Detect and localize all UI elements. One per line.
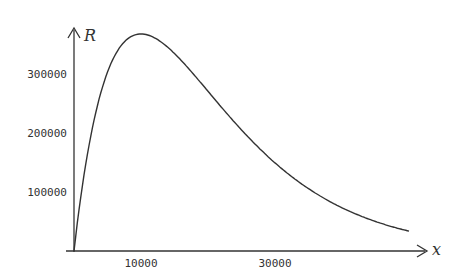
x-axis-label: x — [432, 240, 441, 259]
x-ticks: 1000030000 — [124, 257, 291, 270]
x-tick-label: 10000 — [124, 257, 157, 270]
chart: R x 100000200000300000 1000030000 — [0, 0, 457, 280]
y-axis-label: R — [83, 26, 96, 45]
y-tick-label: 100000 — [27, 186, 67, 199]
y-tick-label: 200000 — [27, 127, 67, 140]
y-tick-label: 300000 — [27, 68, 67, 81]
data-line — [74, 34, 409, 251]
y-ticks: 100000200000300000 — [27, 68, 67, 199]
x-tick-label: 30000 — [258, 257, 291, 270]
